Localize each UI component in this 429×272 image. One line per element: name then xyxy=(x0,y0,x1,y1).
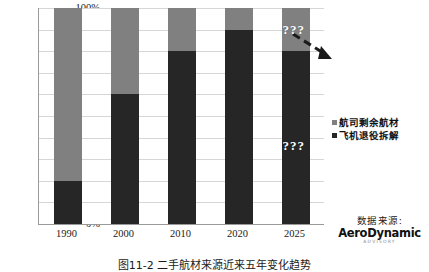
bar-2020[interactable] xyxy=(225,8,253,224)
bar-segment-retired-teardown[interactable] xyxy=(54,181,82,224)
chart-legend: 航司剩余航材 飞机退役拆解 xyxy=(332,116,428,142)
x-axis-tick-label-2010: 2010 xyxy=(151,228,211,239)
legend-item-label: 飞机退役拆解 xyxy=(339,129,399,142)
plot-area: ?????? xyxy=(38,8,324,225)
figure-caption: 图11-2 二手航材来源近来五年变化趋势 xyxy=(0,256,429,272)
source-attribution: 数据来源: AeroDynamic ADVISORY xyxy=(330,213,429,244)
bar-segment-remaining-inventory[interactable] xyxy=(168,8,196,51)
x-axis-tick-label-2020: 2020 xyxy=(208,228,268,239)
bar-segment-remaining-inventory[interactable] xyxy=(111,8,139,94)
legend-item[interactable]: 航司剩余航材 xyxy=(332,116,428,129)
bar-segment-remaining-inventory[interactable] xyxy=(54,8,82,181)
bar-2010[interactable] xyxy=(168,8,196,224)
legend-swatch-gray xyxy=(332,120,337,125)
x-axis-tick-label-1990: 1990 xyxy=(37,228,97,239)
x-axis-tick-label-2000: 2000 xyxy=(94,228,154,239)
bar-segment-retired-teardown[interactable] xyxy=(168,51,196,224)
bar-1990[interactable] xyxy=(54,8,82,224)
logo-wordmark: AeroDynamic xyxy=(330,228,429,240)
aerodynamic-logo: AeroDynamic ADVISORY xyxy=(330,228,429,244)
question-mark-label: ??? xyxy=(283,138,306,154)
x-axis-tick-label-2025: 2025 xyxy=(265,228,325,239)
legend-swatch-black xyxy=(332,133,337,138)
bar-segment-retired-teardown[interactable] xyxy=(225,30,253,224)
bar-segment-remaining-inventory[interactable] xyxy=(225,8,253,30)
question-mark-label: ??? xyxy=(283,22,306,38)
bar-segment-retired-teardown[interactable] xyxy=(111,94,139,224)
source-label: 数据来源: xyxy=(330,213,429,227)
legend-item-label: 航司剩余航材 xyxy=(339,116,399,129)
logo-tagline: ADVISORY xyxy=(330,240,429,245)
bar-2000[interactable] xyxy=(111,8,139,224)
legend-item[interactable]: 飞机退役拆解 xyxy=(332,129,428,142)
